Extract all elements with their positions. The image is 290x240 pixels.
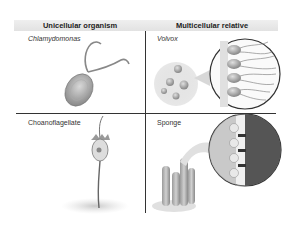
header-multicellular: Multicellular relative: [146, 20, 278, 31]
header-unicellular: Unicellular organism: [14, 20, 146, 31]
chlamydomonas-illustration: [55, 38, 135, 110]
choanoflagellate-illustration: [55, 116, 135, 214]
vertical-divider: [145, 31, 146, 213]
table-header: Unicellular organism Multicellular relat…: [14, 20, 278, 31]
sponge-illustration: [150, 114, 282, 214]
volvox-illustration: [150, 36, 282, 112]
